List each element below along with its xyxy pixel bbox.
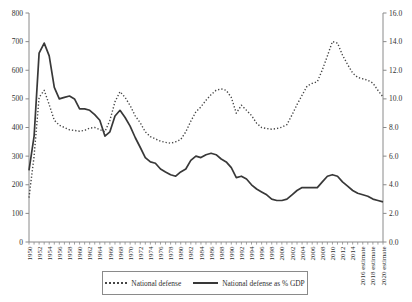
left-axis-tick-label: 600 [12,66,24,75]
x-axis-tick-label: 2006 [309,246,317,261]
legend-label-national-defense: National defense [131,279,181,288]
solid-line-sample [193,282,218,284]
x-axis-tick-label: 1988 [218,246,226,261]
left-axis-tick-label: 300 [12,152,24,161]
x-axis-tick-label: 1966 [107,246,115,261]
axis-frame [29,13,383,242]
x-axis-tick-label: 1994 [248,246,256,261]
x-axis-tick-label: 1952 [36,246,44,261]
left-axis-tick-label: 800 [12,9,24,18]
x-axis-tick-label: 1984 [198,246,206,261]
x-axis-tick-label: 2020 estimate [380,247,388,286]
x-axis-tick-label: 2018 estimate [369,247,377,286]
x-axis-tick-label: 1950 [26,246,34,261]
x-axis-tick-label: 1964 [96,246,104,261]
x-axis-tick-label: 1956 [56,246,64,261]
chart-plot-area: 01002003004005006007008000.02.04.06.08.0… [0,0,412,302]
x-axis-tick-label: 1998 [268,246,276,261]
left-axis-tick-label: 100 [12,209,24,218]
x-axis-tick-label: 2010 [329,246,337,261]
right-axis-tick-label: 16.0 [389,9,402,18]
x-axis-tick-label: 1958 [66,246,74,261]
x-axis-tick-label: 2012 [339,246,347,261]
right-axis-tick-label: 6.0 [389,152,399,161]
x-axis-tick-label: 2000 [278,246,286,261]
x-axis-tick-label: 1976 [157,246,165,261]
right-axis-tick-label: 10.0 [389,94,402,103]
right-axis-tick-label: 4.0 [389,180,399,189]
left-axis-tick-label: 500 [12,94,24,103]
x-axis-tick-label: 1986 [208,246,216,261]
left-axis-tick-label: 400 [12,123,24,132]
left-axis-tick-label: 0 [19,238,23,247]
x-axis-tick-label: 2008 [319,246,327,261]
x-axis-tick-label: 1982 [187,246,195,261]
x-axis-tick-label: 1996 [258,246,266,261]
x-axis-tick-label: 2002 [289,246,297,261]
x-axis-tick-label: 1960 [76,246,84,261]
series-line-defense-pct-gdp [29,43,383,202]
right-axis-tick-label: 8.0 [389,123,399,132]
x-axis-tick-label: 1992 [238,246,246,261]
x-axis-tick-label: 1980 [177,246,185,261]
right-axis-tick-label: 12.0 [389,66,402,75]
x-axis-tick-label: 1978 [167,246,175,261]
legend-label-defense-pct-gdp: National defense as % GDP [222,279,305,288]
x-axis-tick-label: 1962 [86,246,94,261]
x-axis-tick-label: 1972 [137,246,145,261]
x-axis-tick-label: 1954 [46,246,54,261]
x-axis-tick-label: 2014 [349,246,357,261]
right-axis-tick-label: 14.0 [389,37,402,46]
legend: National defense National defense as % G… [102,271,308,295]
defense-spending-chart: 01002003004005006007008000.02.04.06.08.0… [0,0,412,302]
x-axis-tick-label: 2004 [299,246,307,261]
legend-item-defense-pct-gdp: National defense as % GDP [193,279,305,288]
series-line-national-defense [29,42,383,198]
x-axis-tick-label: 1974 [147,246,155,261]
x-axis-tick-label: 1990 [228,246,236,261]
left-axis-tick-label: 200 [12,180,24,189]
right-axis-tick-label: 0.0 [389,238,399,247]
dotted-line-sample [105,282,127,284]
x-axis-tick-label: 1968 [117,246,125,261]
left-axis-tick-label: 700 [12,37,24,46]
legend-item-national-defense: National defense [105,279,181,288]
right-axis-tick-label: 2.0 [389,209,399,218]
x-axis-tick-label: 2016 estimate [359,247,367,286]
x-axis-tick-label: 1970 [127,246,135,261]
